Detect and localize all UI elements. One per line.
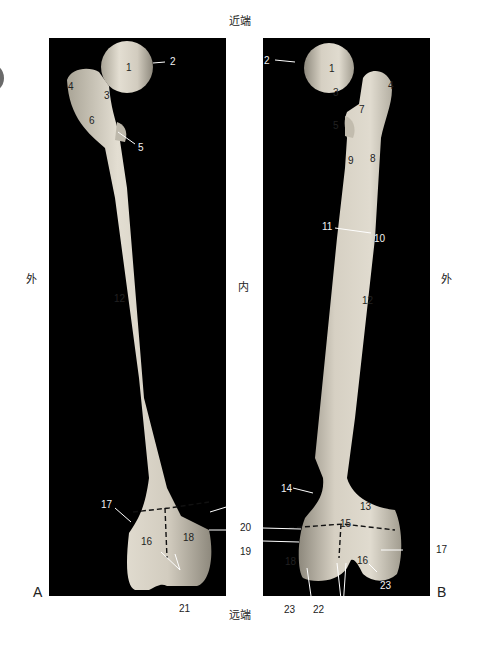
label-20: 20 [240, 523, 251, 533]
label-b-22: 22 [313, 605, 324, 615]
label-a-21: 21 [179, 604, 190, 614]
label-b-11: 11 [322, 222, 332, 232]
label-b-10: 10 [374, 234, 385, 244]
label-b-5: 5 [333, 121, 339, 131]
label-medial: 内 [238, 278, 249, 294]
label-a-2: 2 [170, 57, 176, 67]
label-distal: 远端 [229, 606, 251, 622]
label-a-4: 4 [68, 82, 74, 92]
label-a-17: 17 [101, 500, 112, 510]
chapter-tab-marker [0, 63, 4, 93]
panel-b-posterior-view: 2 1 3 3 4 5 7 8 9 10 11 12 13 14 15 16 1… [263, 38, 430, 596]
femur-anterior-illustration [49, 38, 226, 596]
label-a-6: 6 [89, 116, 95, 126]
label-b-23-right: 23 [380, 581, 391, 591]
panel-a-anterior-view: 1 2 3 4 5 6 12 16 17 18 [49, 38, 226, 596]
label-proximal: 近端 [229, 12, 251, 28]
panel-letter-b: B [437, 584, 446, 600]
label-b-18: 18 [285, 557, 296, 567]
label-b-1: 1 [329, 64, 335, 74]
label-b-9: 9 [348, 156, 354, 166]
label-b-8: 8 [370, 154, 376, 164]
label-19: 19 [240, 547, 251, 557]
label-b-17: 17 [436, 545, 447, 555]
label-b-12: 12 [362, 296, 373, 306]
label-a-3: 3 [104, 91, 110, 101]
label-b-7: 7 [359, 105, 365, 115]
label-b-15: 15 [340, 519, 351, 529]
label-lateral-a: 外 [26, 270, 37, 286]
label-b-13: 13 [360, 502, 371, 512]
label-lateral-b: 外 [441, 270, 452, 286]
label-b-2: 2 [264, 56, 270, 66]
label-b-4: 4 [388, 81, 394, 91]
label-a-1: 1 [126, 63, 132, 73]
label-b-23-left: 23 [284, 605, 295, 615]
label-b-3-visible: 3 [333, 88, 339, 98]
label-b-14: 14 [281, 484, 292, 494]
label-a-5: 5 [138, 143, 144, 153]
label-a-12: 12 [114, 294, 125, 304]
label-a-16: 16 [141, 537, 152, 547]
label-b-16: 16 [357, 556, 368, 566]
panel-letter-a: A [33, 584, 42, 600]
label-a-18: 18 [183, 533, 194, 543]
femur-posterior-illustration [263, 38, 430, 596]
